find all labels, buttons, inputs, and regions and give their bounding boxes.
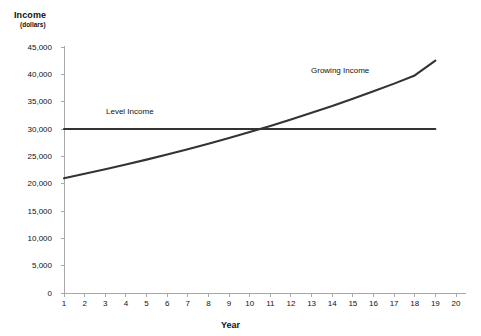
series-line-growing-income bbox=[64, 61, 435, 179]
plot-surface bbox=[0, 0, 481, 336]
chart-series bbox=[64, 61, 435, 179]
chart-axes bbox=[61, 46, 467, 297]
income-comparison-chart: Income (dollars) 05,00010,00015,00020,00… bbox=[0, 0, 481, 336]
